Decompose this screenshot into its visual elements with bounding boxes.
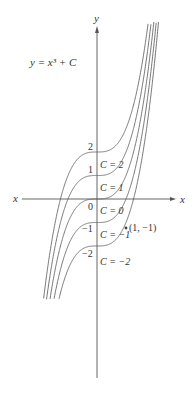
point-marker <box>125 227 128 230</box>
curve-label-c0: C = 0 <box>100 205 123 216</box>
y-tick-neg1: −1 <box>82 223 93 234</box>
x-axis-arrow-icon <box>170 197 176 201</box>
x-axis-neg-label: x <box>12 192 18 204</box>
curve-label-c2: C = 2 <box>100 159 123 170</box>
equation-title: y = x³ + C <box>29 56 77 68</box>
y-axis-label: y <box>93 12 99 24</box>
curve-label-cneg2: C = −2 <box>100 256 130 267</box>
y-tick-0: 0 <box>88 201 93 212</box>
x-axis-label: x <box>179 193 185 205</box>
y-tick-1: 1 <box>88 164 93 175</box>
point-annotation: (1, −1) <box>129 222 156 234</box>
diagram-canvas: x x y y = x³ + C 2 1 0 −1 −2 C = 2 C = 1… <box>0 0 194 393</box>
curve-label-c1: C = 1 <box>100 182 123 193</box>
curve-label-cneg1: C = −1 <box>100 229 130 240</box>
y-tick-2: 2 <box>88 141 93 152</box>
y-tick-neg2: −2 <box>82 248 93 259</box>
y-axis-arrow-icon <box>95 26 99 33</box>
